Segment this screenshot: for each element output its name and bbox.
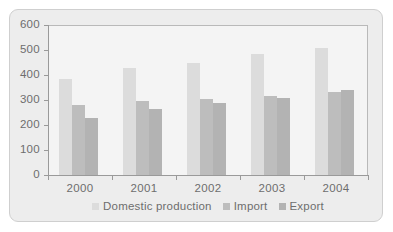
bar-export-2000 — [85, 118, 98, 176]
bar-import-2003 — [264, 96, 277, 175]
x-tick-mark — [112, 176, 113, 180]
bars-container — [48, 26, 367, 175]
bar-export-2004 — [341, 90, 354, 175]
bar-import-2000 — [72, 105, 85, 175]
y-tick-label: 600 — [0, 18, 40, 30]
x-tick-label-2004: 2004 — [306, 182, 366, 194]
bar-domestic-production-2004 — [315, 48, 328, 175]
x-tick-mark — [48, 176, 49, 180]
y-tick-mark — [44, 125, 49, 126]
x-tick-mark — [240, 176, 241, 180]
legend-swatch-icon — [92, 203, 99, 210]
bar-domestic-production-2002 — [187, 63, 200, 175]
x-tick-label-2002: 2002 — [178, 182, 238, 194]
x-tick-label-2003: 2003 — [242, 182, 302, 194]
y-tick-label: 100 — [0, 143, 40, 155]
y-tick-mark — [44, 25, 49, 26]
legend-item-export[interactable]: Export — [279, 200, 324, 212]
bar-import-2001 — [136, 101, 149, 176]
bar-import-2004 — [328, 92, 341, 175]
y-tick-mark — [44, 75, 49, 76]
x-tick-mark — [176, 176, 177, 180]
y-tick-label: 200 — [0, 118, 40, 130]
bar-import-2002 — [200, 99, 213, 175]
x-tick-label-2001: 2001 — [114, 182, 174, 194]
x-tick-label-2000: 2000 — [50, 182, 110, 194]
legend-swatch-icon — [223, 203, 230, 210]
x-tick-mark — [368, 176, 369, 180]
legend-swatch-icon — [279, 203, 286, 210]
legend-item-import[interactable]: Import — [223, 200, 268, 212]
y-tick-mark — [44, 50, 49, 51]
legend-label: Import — [234, 200, 268, 212]
bar-domestic-production-2000 — [59, 79, 72, 175]
chart-legend: Domestic productionImportExport — [48, 198, 368, 214]
y-tick-label: 400 — [0, 68, 40, 80]
y-tick-mark — [44, 100, 49, 101]
legend-item-domestic-production[interactable]: Domestic production — [92, 200, 212, 212]
x-tick-mark — [304, 176, 305, 180]
bar-domestic-production-2001 — [123, 68, 136, 175]
bar-export-2003 — [277, 98, 290, 175]
x-axis-line — [44, 175, 369, 176]
bar-domestic-production-2003 — [251, 54, 264, 175]
legend-label: Domestic production — [103, 200, 212, 212]
bar-export-2002 — [213, 103, 226, 176]
y-tick-label: 0 — [0, 168, 40, 180]
bar-chart: 0100200300400500600 20002001200220032004… — [0, 0, 393, 232]
y-tick-mark — [44, 150, 49, 151]
legend-label: Export — [290, 200, 324, 212]
y-tick-label: 500 — [0, 43, 40, 55]
plot-area — [48, 25, 368, 175]
y-tick-label: 300 — [0, 93, 40, 105]
bar-export-2001 — [149, 109, 162, 175]
